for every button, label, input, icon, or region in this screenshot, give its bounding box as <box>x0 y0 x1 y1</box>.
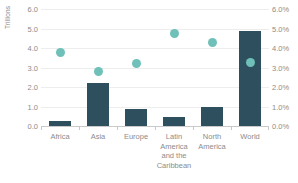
x-axis-labels: AfricaAsiaEuropeLatinAmericaand theCarib… <box>41 132 269 182</box>
x-axis-category-label-line: Caribbean <box>151 161 197 171</box>
x-tick-mark <box>117 127 118 130</box>
y-axis-right-ticks: 0.0%1.0%2.0%3.0%4.0%5.0%6.0% <box>272 0 298 183</box>
bar <box>49 121 71 126</box>
bar <box>201 107 223 126</box>
y2-tick-label: 5.0% <box>272 26 298 34</box>
x-axis-ticks <box>41 127 269 131</box>
chart-container: Trillions 0.01.02.03.04.05.06.0 0.0%1.0%… <box>0 0 298 183</box>
gridline <box>41 68 269 69</box>
y2-tick-label: 3.0% <box>272 65 298 73</box>
y-tick-label: 6.0 <box>12 6 38 14</box>
data-point <box>246 58 255 67</box>
data-point <box>208 38 217 47</box>
y-tick-label: 1.0 <box>12 104 38 112</box>
gridline <box>41 107 269 108</box>
x-axis-category-label-line: America <box>189 142 235 152</box>
x-tick-mark <box>268 127 269 130</box>
y-tick-label: 4.0 <box>12 45 38 53</box>
data-point <box>56 48 65 57</box>
x-axis-category-label: World <box>227 132 273 142</box>
x-tick-mark <box>155 127 156 130</box>
x-tick-mark <box>193 127 194 130</box>
x-tick-mark <box>41 127 42 130</box>
x-tick-mark <box>231 127 232 130</box>
gridline <box>41 87 269 88</box>
data-point <box>170 29 179 38</box>
bar <box>239 31 261 126</box>
y2-tick-label: 0.0% <box>272 123 298 131</box>
data-point <box>132 59 141 68</box>
plot-area <box>41 10 269 127</box>
y-tick-label: 0.0 <box>12 123 38 131</box>
x-tick-mark <box>79 127 80 130</box>
x-axis-category-label-line: and the <box>151 151 197 161</box>
y2-tick-label: 6.0% <box>272 6 298 14</box>
gridline <box>41 9 269 10</box>
y-tick-label: 5.0 <box>12 26 38 34</box>
gridline <box>41 48 269 49</box>
y2-tick-label: 4.0% <box>272 45 298 53</box>
bar <box>125 109 147 126</box>
y2-tick-label: 1.0% <box>272 104 298 112</box>
data-point <box>94 67 103 76</box>
y2-tick-label: 2.0% <box>272 84 298 92</box>
bar <box>87 83 109 126</box>
x-axis-category-label-line: World <box>227 132 273 142</box>
y-tick-label: 3.0 <box>12 65 38 73</box>
bar <box>163 117 185 126</box>
y-axis-title: Trillions <box>4 0 11 38</box>
y-axis-left-ticks: 0.01.02.03.04.05.06.0 <box>12 0 38 183</box>
y-tick-label: 2.0 <box>12 84 38 92</box>
gridline <box>41 29 269 30</box>
